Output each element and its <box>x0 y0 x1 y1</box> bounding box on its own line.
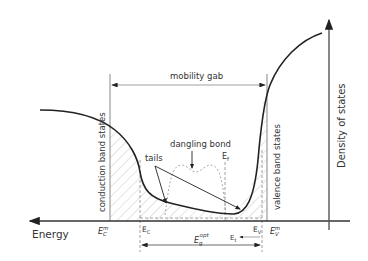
energy-axis-label: Energy <box>32 228 69 240</box>
ev-label: EV <box>253 225 262 235</box>
ec-m-label: ECm <box>98 225 108 237</box>
valence-band-label: valence band states <box>272 124 282 210</box>
ef-label: Ef <box>222 152 230 162</box>
density-of-states-diagram: mobility gab Energy Density of states co… <box>0 0 368 261</box>
dangling-bond-label: dangling bond <box>170 139 231 149</box>
ec-label: EC <box>142 225 151 235</box>
et-label: Et <box>230 234 236 243</box>
ev-m-label: EVm <box>270 225 280 237</box>
conduction-band-label: conduction band states <box>97 112 107 212</box>
dos-axis-label: Density of states <box>336 83 347 168</box>
mobility-gap-label: mobility gab <box>170 71 223 81</box>
tails-label: tails <box>145 153 163 163</box>
